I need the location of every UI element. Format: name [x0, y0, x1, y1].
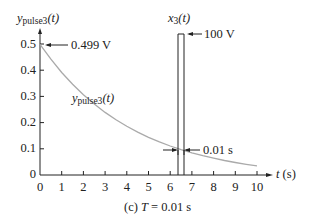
y-tick-label: 0.4	[12, 64, 36, 77]
x-tick-label: 1	[59, 181, 65, 194]
y-tick-label: 0.2	[12, 116, 36, 129]
x-tick-label: 2	[80, 181, 86, 194]
height-arrow-head-icon	[187, 32, 193, 36]
x-axis-title: t (s)	[276, 168, 296, 181]
pulse-label: x3(t)	[168, 12, 190, 27]
x-tick-label: 10	[251, 181, 264, 194]
curve-label-arg: (t)	[102, 91, 114, 105]
y-tick-label: 0.3	[12, 90, 36, 103]
caption-prefix: (c)	[124, 200, 141, 214]
x-tick-label: 4	[124, 181, 130, 194]
y-ticks	[40, 44, 44, 149]
x-axis-title-unit: (s)	[279, 167, 295, 181]
caption-rest: = 0.01 s	[148, 200, 191, 214]
y-axis-title: ypulse3(t)	[17, 12, 59, 27]
x-axis-arrow-icon	[266, 173, 273, 177]
y-axis-arrow-icon	[38, 28, 42, 34]
x-tick-label: 0	[37, 181, 43, 194]
caption-var: T	[141, 200, 148, 214]
chart-canvas	[0, 0, 313, 223]
x-tick-label: 7	[189, 181, 195, 194]
x-tick-label: 9	[232, 181, 238, 194]
y-axis-title-sub: pulse3	[23, 16, 48, 26]
peak-value-label: 0.499 V	[71, 39, 111, 52]
figure-caption: (c) T = 0.01 s	[124, 201, 191, 214]
x-tick-label: 3	[102, 181, 108, 194]
x-tick-label: 8	[210, 181, 216, 194]
y-tick-label: 0.5	[12, 38, 36, 51]
y-tick-label: 0	[12, 168, 36, 181]
pulse-height-label: 100 V	[204, 28, 235, 41]
pulse-x3	[178, 34, 184, 175]
curve-label: ypulse3(t)	[72, 92, 114, 107]
x-tick-label: 6	[167, 181, 173, 194]
curve-label-sub: pulse3	[78, 96, 103, 106]
pulse-width-label: 0.01 s	[203, 144, 233, 157]
y-axis-title-arg: (t)	[47, 11, 59, 25]
peak-arrow-head-icon	[45, 43, 51, 47]
x-tick-label: 5	[145, 181, 151, 194]
y-tick-label: 0.1	[12, 142, 36, 155]
pulse-label-arg: (t)	[178, 11, 190, 25]
x-ticks	[62, 171, 257, 175]
